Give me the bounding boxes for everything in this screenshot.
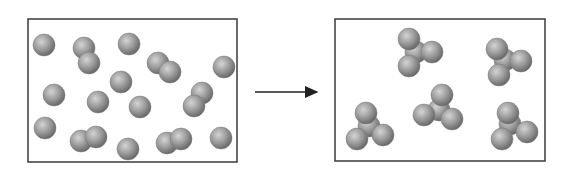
atom-sphere-icon — [413, 104, 435, 126]
atom-sphere-icon — [87, 91, 109, 113]
atom-sphere-icon — [129, 96, 151, 118]
atom-sphere-icon — [488, 64, 510, 86]
atom-sphere-icon — [78, 52, 100, 74]
atom-sphere-icon — [43, 84, 65, 106]
atom-sphere-icon — [398, 28, 420, 50]
atom-sphere-icon — [159, 61, 181, 83]
atom-sphere-icon — [441, 108, 463, 130]
atom-sphere-icon — [486, 38, 508, 60]
atom-sphere-icon — [421, 41, 443, 63]
atom-sphere-icon — [491, 128, 513, 150]
atom-sphere-icon — [183, 95, 205, 117]
atom-sphere-icon — [346, 128, 368, 150]
atom-sphere-icon — [33, 34, 55, 56]
atom-sphere-icon — [355, 102, 377, 124]
atom-sphere-icon — [85, 126, 107, 148]
atom-sphere-icon — [431, 84, 453, 106]
atom-sphere-icon — [213, 56, 235, 78]
atom-sphere-icon — [34, 117, 56, 139]
atom-sphere-icon — [110, 71, 132, 93]
atom-sphere-icon — [118, 33, 140, 55]
atom-sphere-icon — [497, 102, 519, 124]
reaction-diagram — [0, 0, 563, 172]
atom-sphere-icon — [170, 128, 192, 150]
atom-sphere-icon — [398, 55, 420, 77]
atom-sphere-icon — [117, 138, 139, 160]
atom-sphere-icon — [516, 121, 538, 143]
atom-sphere-icon — [210, 127, 232, 149]
atom-sphere-icon — [372, 124, 394, 146]
atom-sphere-icon — [510, 50, 532, 72]
